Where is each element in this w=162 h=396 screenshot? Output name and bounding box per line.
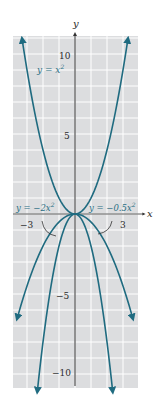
tick-label-10: 10 — [59, 51, 71, 61]
parabola-chart: y x 10 5 −5 −10 −3 3 y = x2 y = −2x2 y =… — [0, 0, 162, 396]
label-y-eq-neg2-x-squared: y = −2x2 — [15, 201, 55, 213]
label-y-eq-neg05-x-squared: y = −0.5x2 — [88, 201, 136, 213]
x-axis-label: x — [147, 208, 153, 219]
label-y-eq-x-squared: y = x2 — [36, 63, 64, 75]
tick-label-neg5: −5 — [56, 291, 70, 301]
tick-label-3: 3 — [120, 220, 126, 230]
tick-label-5: 5 — [64, 131, 70, 141]
y-axis-label: y — [72, 18, 79, 29]
tick-label-neg3: −3 — [20, 220, 34, 230]
tick-label-neg10: −10 — [52, 368, 71, 378]
